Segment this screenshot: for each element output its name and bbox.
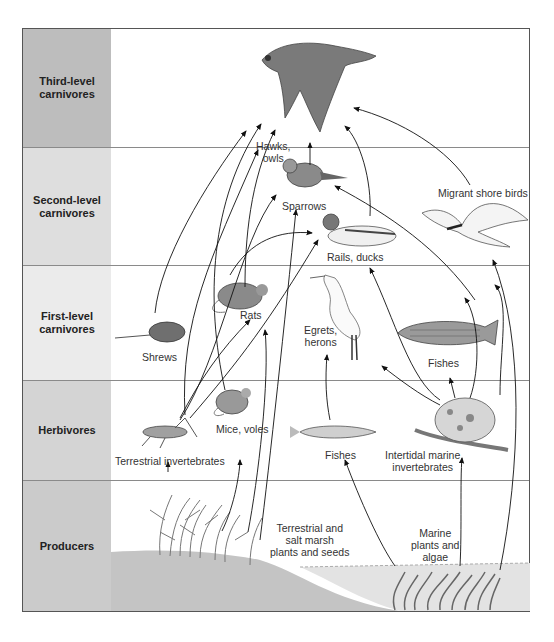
label-sparrows: Sparrows — [282, 200, 326, 212]
label-marine-plants-algae: Marineplants andalgae — [411, 527, 459, 563]
label-shrews: Shrews — [142, 351, 177, 363]
snail-icon — [415, 398, 508, 450]
label-hawks-owls: Hawks,owls — [256, 140, 290, 164]
fish-herbivore-icon — [290, 426, 376, 438]
grasshopper-icon — [142, 418, 197, 448]
label-mice-voles: Mice, voles — [216, 423, 269, 435]
duck-icon — [323, 214, 396, 246]
label-rails-ducks: Rails, ducks — [327, 251, 384, 263]
label-fishes-first-level: Fishes — [428, 357, 459, 369]
fish-first-level-icon — [398, 320, 498, 345]
label-egrets-herons: Egrets,herons — [304, 324, 337, 348]
sparrow-icon — [283, 159, 348, 187]
label-terrestrial-invertebrates: Terrestrial invertebrates — [115, 455, 225, 467]
label-fishes-herbivores: Fishes — [325, 449, 356, 461]
hawk-icon — [262, 43, 376, 132]
label-intertidal-marine-invertebrates: Intertidal marineinvertebrates — [385, 449, 460, 473]
label-migrant-shore-birds: Migrant shore birds — [438, 187, 528, 199]
tern-icon — [422, 204, 528, 247]
mouse-icon — [214, 388, 251, 416]
label-rats: Rats — [240, 309, 262, 321]
label-terrestrial-salt-marsh-plants: Terrestrial andsalt marshplants and seed… — [270, 522, 349, 558]
rat-icon — [213, 283, 268, 312]
shrew-icon — [115, 322, 185, 342]
